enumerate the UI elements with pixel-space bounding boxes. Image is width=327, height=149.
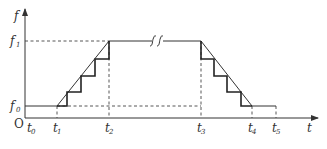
svg-text:1: 1	[16, 41, 20, 49]
axes	[25, 9, 318, 118]
origin-label: O	[14, 117, 24, 131]
svg-text:5: 5	[276, 128, 281, 136]
t5-label: t 5	[272, 121, 281, 136]
svg-text:0: 0	[16, 106, 21, 114]
x-axis-label: t	[307, 121, 312, 135]
t4-label: t 4	[248, 121, 256, 136]
decel-ramp	[201, 41, 252, 106]
svg-text:3: 3	[201, 128, 206, 136]
t0-label: t 0	[27, 121, 36, 136]
frequency-profile	[25, 41, 276, 106]
t3-label: t 3	[197, 121, 206, 136]
f0-label: f 0	[9, 99, 21, 114]
f1-label: f 1	[9, 34, 20, 49]
frequency-time-diagram: f f 1 f 0 O t 0 t 1 t 2 t 3 t 4	[0, 0, 327, 149]
svg-text:4: 4	[251, 128, 256, 136]
svg-text:0: 0	[31, 128, 36, 136]
accel-ramp	[57, 41, 109, 106]
t2-label: t 2	[105, 121, 114, 136]
svg-text:2: 2	[108, 128, 114, 136]
y-axis-label: f	[13, 9, 21, 23]
t1-label: t 1	[53, 121, 61, 136]
svg-text:1: 1	[57, 128, 61, 136]
